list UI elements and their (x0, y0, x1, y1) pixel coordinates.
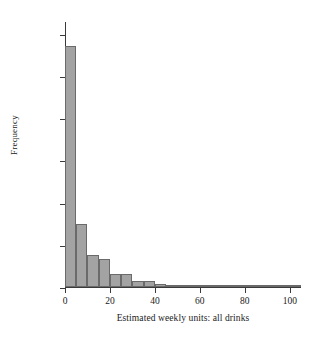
y-axis-tick (60, 246, 65, 247)
y-axis-tick (60, 35, 65, 36)
histogram-bar (76, 224, 87, 287)
y-axis-title: Frequency (9, 75, 19, 195)
histogram-bar (87, 255, 98, 287)
plot-area: 01,0002,0003,0004,0005,0006,000020406080… (65, 22, 301, 288)
x-axis-tick-label: 0 (45, 296, 85, 306)
histogram-bar (211, 285, 222, 287)
histogram-bar (110, 274, 121, 287)
y-axis-tick (60, 161, 65, 162)
histogram-bar (144, 281, 155, 287)
histogram-bar (200, 285, 211, 287)
histogram-bar (267, 285, 278, 287)
histogram-bar (290, 285, 301, 287)
histogram-bar (245, 285, 256, 287)
histogram-bar (155, 284, 166, 287)
x-axis-tick (200, 288, 201, 293)
x-axis-tick-label: 40 (135, 296, 175, 306)
x-axis-tick-label: 60 (180, 296, 220, 306)
histogram-bar (132, 281, 143, 287)
histogram-bar (177, 285, 188, 287)
histogram-figure: Frequency 01,0002,0003,0004,0005,0006,00… (0, 0, 315, 337)
x-axis-tick (245, 288, 246, 293)
y-axis-tick (60, 119, 65, 120)
x-axis-tick (155, 288, 156, 293)
x-axis-title: Estimated weekly units: all drinks (58, 313, 308, 323)
histogram-bar (189, 285, 200, 287)
histogram-bar (234, 285, 245, 287)
x-axis-tick-label: 80 (225, 296, 265, 306)
x-axis-tick-label: 100 (270, 296, 310, 306)
histogram-bar (222, 285, 233, 287)
bar-series (65, 22, 301, 288)
histogram-bar (166, 285, 177, 287)
histogram-bar (256, 285, 267, 287)
y-axis-tick (60, 77, 65, 78)
histogram-bar (99, 259, 110, 287)
x-axis-tick-label: 20 (90, 296, 130, 306)
x-axis-tick (290, 288, 291, 293)
x-axis-tick (65, 288, 66, 293)
x-axis-tick (110, 288, 111, 293)
histogram-bar (279, 285, 290, 287)
histogram-bar (121, 274, 132, 287)
y-axis-tick (60, 204, 65, 205)
histogram-bar (65, 46, 76, 287)
